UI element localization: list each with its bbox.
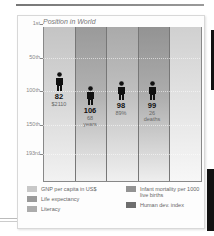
gridline (43, 154, 200, 155)
legend-swatch (27, 186, 37, 192)
divider (0, 221, 18, 222)
legend-right: Infant mortality per 1000 live births Hu… (126, 186, 202, 212)
chart-panel: Position in World 1st 50th 100th 150th 1… (17, 15, 205, 229)
rank-value: 82 (44, 93, 74, 101)
divider (0, 218, 18, 219)
rank-value: 98 (106, 102, 136, 110)
rank-value: 99 (137, 102, 167, 110)
legend-label: Literacy (41, 206, 60, 212)
legend-label: Life expectancy (41, 196, 79, 202)
chart-title: Position in World (43, 18, 96, 25)
page-edge-bar (211, 30, 214, 90)
legend-label: Human dev. index (140, 202, 184, 208)
y-tick-label: 193rd (18, 150, 40, 156)
rank-marker-literacy: 98 89% (106, 81, 136, 116)
y-tick-mark (40, 24, 43, 25)
column-human-dev-index (170, 27, 201, 181)
rank-marker-gnp: 82 $2110 (44, 72, 74, 107)
legend-label: GNP per capita in US$ (41, 186, 97, 192)
person-icon (148, 81, 157, 101)
y-tick-label: 50th (18, 54, 40, 60)
legend-item: Life expectancy (27, 196, 119, 206)
person-icon (86, 86, 95, 106)
y-tick-label: 1st (18, 20, 40, 26)
gridline (43, 125, 200, 126)
legend-swatch (27, 196, 37, 202)
rank-value: 106 (75, 107, 105, 115)
legend-left: GNP per capita in US$ Life expectancy Li… (27, 186, 119, 216)
person-icon (55, 72, 64, 92)
rank-marker-life-expectancy: 106 68 years (75, 86, 105, 127)
legend-swatch (126, 202, 136, 208)
legend-item: Human dev. index (126, 202, 202, 212)
top-rule (16, 4, 204, 6)
metric-unit: years (75, 121, 105, 127)
metric-value: 89% (106, 110, 136, 116)
page-edge-bar (207, 169, 214, 231)
rank-marker-infant-mortality: 99 26 deaths (137, 81, 167, 122)
metric-value: $2110 (44, 101, 74, 107)
person-icon (117, 81, 126, 101)
legend-swatch (27, 206, 37, 212)
y-tick-label: 100th (18, 87, 40, 93)
legend-item: Literacy (27, 206, 119, 216)
gridline (43, 58, 200, 59)
legend-item: Infant mortality per 1000 live births (126, 186, 202, 202)
metric-unit: deaths (137, 116, 167, 122)
legend-label: Infant mortality per 1000 live births (140, 186, 199, 198)
legend-item: GNP per capita in US$ (27, 186, 119, 196)
legend-swatch (126, 186, 136, 192)
y-tick-label: 150th (18, 121, 40, 127)
